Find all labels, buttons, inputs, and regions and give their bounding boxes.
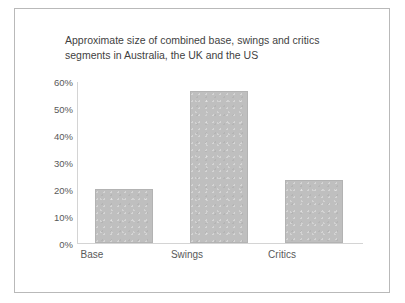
y-tick-10: 10% [33,212,73,223]
y-tick-0: 0% [33,239,73,250]
x-tick-base: Base [47,249,137,260]
y-tick-20: 20% [33,185,73,196]
y-tick-40: 40% [33,131,73,142]
y-axis-tick-labels: 0% 10% 20% 30% 40% 50% 60% [29,82,73,244]
chart-title: Approximate size of combined base, swing… [65,33,365,63]
bar-column-critics [285,82,343,243]
y-tick-60: 60% [33,77,73,88]
bar-column-base [95,82,153,243]
bar-swings[interactable] [190,91,248,243]
bar-critics[interactable] [285,180,343,243]
bar-column-swings [190,82,248,243]
x-axis-line [77,243,363,244]
x-tick-critics: Critics [237,249,327,260]
plot-area [77,82,362,243]
bar-base[interactable] [95,189,153,243]
y-tick-50: 50% [33,104,73,115]
y-tick-30: 30% [33,158,73,169]
chart-card: Approximate size of combined base, swing… [14,8,390,293]
x-tick-swings: Swings [142,249,232,260]
